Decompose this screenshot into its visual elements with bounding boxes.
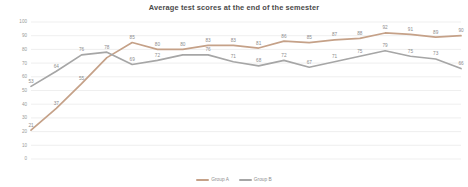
legend-line-swatch-icon [239,179,252,181]
legend-line-swatch-icon [196,179,209,181]
chart-legend: Group AGroup B [0,177,468,183]
gridlines-group [31,22,461,159]
legend-label: Group A [211,177,229,183]
legend-item[interactable]: Group B [239,177,272,183]
series-line-group-a [31,33,461,130]
legend-label: Group B [254,177,272,183]
series-lines-group [31,33,461,130]
chart-container: Average test scores at the end of the se… [0,0,468,187]
chart-plot-area [0,0,468,187]
legend-item[interactable]: Group A [196,177,229,183]
